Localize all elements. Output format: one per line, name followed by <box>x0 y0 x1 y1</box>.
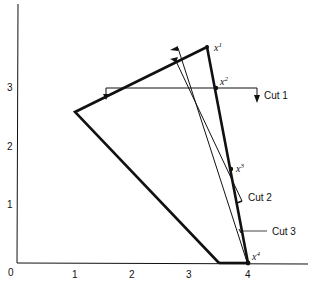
origin-label: 0 <box>8 267 14 278</box>
cut-3-arrow-icon <box>170 46 178 51</box>
y-tick-1: 1 <box>7 199 13 210</box>
point-x2 <box>214 86 218 90</box>
x-tick-1: 1 <box>72 269 78 280</box>
cutting-plane-diagram: 0 1 2 3 4 1 2 3 x1 x2 x3 x4 Cut 1 Cut 2 … <box>0 0 312 289</box>
label-x2: x2 <box>219 75 228 87</box>
cut-2-line <box>175 59 242 201</box>
cut-1-right-arrow-icon <box>254 95 260 103</box>
label-x4: x4 <box>251 250 260 262</box>
cut-2-label: Cut 2 <box>248 192 272 203</box>
diagram-canvas: 0 1 2 3 4 1 2 3 x1 x2 x3 x4 Cut 1 Cut 2 … <box>0 0 312 289</box>
label-x1: x1 <box>213 41 222 53</box>
point-x3 <box>229 167 233 171</box>
cut-1-label: Cut 1 <box>264 90 288 101</box>
y-axis <box>17 4 18 263</box>
point-x4 <box>246 261 251 266</box>
label-x3: x3 <box>235 162 244 174</box>
inner-vertex <box>173 58 177 62</box>
x-tick-2: 2 <box>129 269 135 280</box>
y-tick-2: 2 <box>7 141 13 152</box>
cut-3-label: Cut 3 <box>272 226 296 237</box>
x-tick-3: 3 <box>186 269 192 280</box>
point-x1 <box>205 45 209 49</box>
x-tick-4: 4 <box>245 269 251 280</box>
x-axis <box>17 263 308 264</box>
y-tick-3: 3 <box>7 82 13 93</box>
cut-2-tick <box>237 201 242 203</box>
